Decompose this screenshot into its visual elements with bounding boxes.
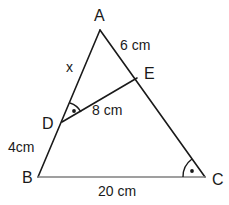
side-ab-line — [38, 30, 100, 177]
vertex-label-a: A — [94, 8, 105, 24]
vertex-label-b: B — [22, 170, 33, 186]
measure-label-bd: 4cm — [8, 140, 34, 154]
measure-label-de: 8 cm — [92, 103, 122, 117]
measure-label-ad: x — [66, 60, 73, 74]
vertex-label-e: E — [144, 66, 155, 82]
vertex-label-c: C — [212, 172, 224, 188]
measure-label-bc: 20 cm — [98, 184, 136, 198]
vertex-label-d: D — [42, 116, 54, 132]
measure-label-ae: 6 cm — [120, 38, 150, 52]
angle-ade-dot — [72, 109, 76, 113]
geometry-figure: A B C D E 6 cm x 8 cm 4cm 20 cm — [0, 0, 229, 205]
angle-bce-dot — [190, 169, 194, 173]
angle-bce-arc — [183, 159, 192, 177]
